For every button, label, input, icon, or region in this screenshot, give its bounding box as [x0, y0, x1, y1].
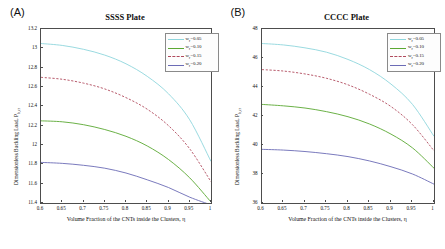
legend-label: wr=0.10 [408, 45, 424, 52]
x-tick-label: 0.8 [122, 205, 128, 211]
y-tick-label: 44 [238, 83, 258, 89]
legend-label: wr=0.15 [186, 54, 202, 61]
series-line [41, 77, 211, 181]
figure-container: (A) SSSS Plate Dimensionless Buckling Lo… [0, 0, 445, 249]
x-tick-mark [411, 200, 412, 203]
y-tick-mark [40, 47, 43, 48]
y-tick-mark [40, 144, 43, 145]
y-tick-label: 12 [17, 141, 37, 147]
panel-b-x-axis-label: Volume Fraction of the CNTs inside the C… [261, 216, 435, 222]
x-tick-label: 0.6 [37, 205, 43, 211]
x-tick-mark [390, 200, 391, 203]
x-tick-label: 1 [431, 205, 434, 211]
series-line [262, 104, 434, 168]
x-tick-mark [146, 200, 147, 203]
x-tick-mark [168, 200, 169, 203]
y-tick-label: 12.4 [17, 102, 37, 108]
x-tick-label: 0.8 [343, 205, 349, 211]
legend-item[interactable]: wr=0.05 [168, 36, 216, 45]
legend-item[interactable]: wr=0.15 [390, 53, 438, 62]
x-tick-label: 0.75 [321, 205, 330, 211]
panel-b-label: (B) [231, 6, 246, 18]
panel-a-legend: wr=0.05wr=0.10wr=0.15wr=0.20 [165, 33, 219, 72]
x-tick-label: 0.9 [386, 205, 392, 211]
y-tick-mark [261, 173, 264, 174]
panel-a-label: (A) [10, 6, 25, 18]
y-tick-mark [261, 28, 264, 29]
y-tick-label: 38 [238, 170, 258, 176]
legend-label: wr=0.10 [186, 45, 202, 52]
x-tick-mark [368, 200, 369, 203]
y-tick-mark [261, 144, 264, 145]
x-tick-mark [304, 200, 305, 203]
x-tick-label: 0.85 [364, 205, 373, 211]
y-tick-label: 12.6 [17, 83, 37, 89]
y-tick-mark [261, 57, 264, 58]
y-tick-label: 13.2 [17, 25, 37, 31]
panel-b-legend: wr=0.05wr=0.10wr=0.15wr=0.20 [387, 33, 441, 72]
y-tick-mark [40, 125, 43, 126]
legend-label: wr=0.05 [186, 37, 202, 44]
y-tick-label: 48 [238, 25, 258, 31]
legend-item[interactable]: wr=0.20 [168, 61, 216, 70]
legend-item[interactable]: wr=0.10 [390, 44, 438, 53]
y-tick-label: 11.4 [17, 199, 37, 205]
x-tick-mark [433, 200, 434, 203]
y-tick-mark [261, 202, 264, 203]
series-line [262, 70, 434, 151]
y-tick-mark [40, 28, 43, 29]
panel-b-title: CCCC Plate [261, 12, 433, 22]
x-tick-label: 0.6 [257, 205, 263, 211]
y-tick-mark [40, 67, 43, 68]
panel-a: (A) SSSS Plate Dimensionless Buckling Lo… [0, 0, 223, 249]
y-tick-label: 11.6 [17, 180, 37, 186]
legend-item[interactable]: wr=0.10 [168, 44, 216, 53]
y-tick-mark [40, 163, 43, 164]
y-tick-label: 12.2 [17, 122, 37, 128]
legend-label: wr=0.20 [408, 62, 424, 69]
x-tick-label: 0.9 [164, 205, 170, 211]
legend-item[interactable]: wr=0.15 [168, 53, 216, 62]
legend-label: wr=0.05 [408, 37, 424, 44]
y-axis-label-sub: b,cr [17, 108, 21, 114]
x-tick-label: 0.95 [184, 205, 193, 211]
panel-a-title: SSSS Plate [40, 12, 210, 22]
y-tick-label: 12.8 [17, 64, 37, 70]
legend-label: wr=0.20 [186, 62, 202, 69]
x-tick-label: 0.85 [142, 205, 151, 211]
panel-a-x-axis-label: Volume Fraction of the CNTs inside the C… [40, 216, 212, 222]
panel-b: (B) CCCC Plate Dimensionless Buckling Lo… [223, 0, 445, 249]
x-tick-mark [61, 200, 62, 203]
x-tick-mark [40, 200, 41, 203]
x-tick-label: 0.7 [79, 205, 85, 211]
x-tick-mark [347, 200, 348, 203]
y-tick-mark [40, 202, 43, 203]
x-tick-label: 0.75 [99, 205, 108, 211]
y-tick-label: 46 [238, 54, 258, 60]
series-line [262, 149, 434, 184]
x-tick-label: 0.95 [407, 205, 416, 211]
x-tick-mark [125, 200, 126, 203]
x-tick-mark [104, 200, 105, 203]
series-line [41, 121, 211, 202]
y-tick-label: 11.8 [17, 160, 37, 166]
x-tick-label: 0.65 [57, 205, 66, 211]
y-tick-mark [40, 183, 43, 184]
y-tick-mark [40, 86, 43, 87]
legend-label: wr=0.15 [408, 54, 424, 61]
y-tick-mark [261, 86, 264, 87]
x-tick-label: 0.7 [300, 205, 306, 211]
x-tick-mark [210, 200, 211, 203]
y-tick-mark [40, 105, 43, 106]
y-tick-mark [261, 115, 264, 116]
x-tick-mark [83, 200, 84, 203]
series-line [41, 162, 211, 203]
y-tick-label: 13 [17, 44, 37, 50]
x-tick-label: 1 [209, 205, 212, 211]
y-tick-label: 36 [238, 199, 258, 205]
x-tick-mark [325, 200, 326, 203]
legend-item[interactable]: wr=0.20 [390, 61, 438, 70]
legend-item[interactable]: wr=0.05 [390, 36, 438, 45]
y-tick-label: 42 [238, 112, 258, 118]
x-tick-mark [282, 200, 283, 203]
